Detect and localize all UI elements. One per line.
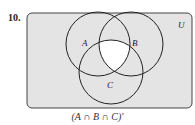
universe-label: U	[178, 20, 185, 30]
set-a-label: A	[81, 38, 88, 48]
venn-diagram: A B C U	[0, 0, 195, 125]
set-b-label: B	[132, 38, 138, 48]
set-expression-caption: (A ∩ B ∩ C)′	[0, 111, 195, 122]
set-c-label: C	[107, 80, 114, 90]
